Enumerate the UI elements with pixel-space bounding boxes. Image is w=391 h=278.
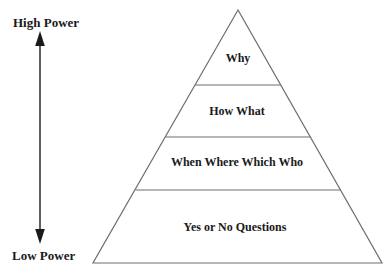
pyramid-level-label-yes-or-no: Yes or No Questions — [184, 220, 287, 234]
power-arrow-down-head — [35, 229, 45, 244]
diagram-svg: High Power Low Power Why How What When W… — [0, 0, 391, 278]
pyramid-level-label-why: Why — [226, 51, 251, 65]
power-arrow-up-head — [35, 31, 45, 46]
low-power-label: Low Power — [12, 248, 75, 263]
pyramid-level-label-when-where-which-who: When Where Which Who — [171, 155, 303, 169]
pyramid-diagram: High Power Low Power Why How What When W… — [0, 0, 391, 278]
high-power-label: High Power — [13, 15, 79, 30]
pyramid-level-label-how-what: How What — [209, 104, 264, 118]
